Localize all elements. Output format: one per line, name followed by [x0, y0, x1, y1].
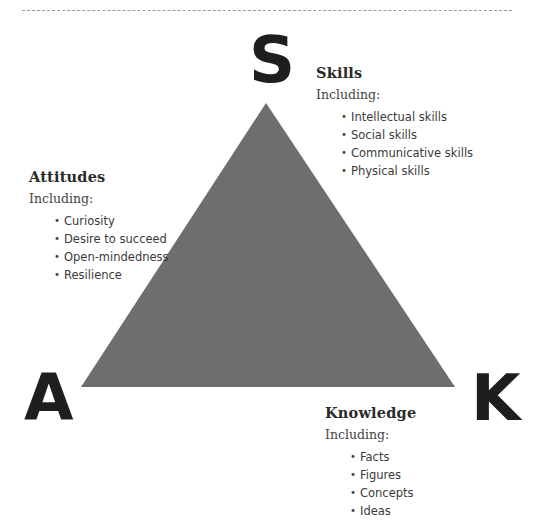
- vertex-letter-k: K: [471, 366, 521, 430]
- knowledge-list: Facts Figures Concepts Ideas: [325, 448, 416, 520]
- list-item: Curiosity: [54, 212, 169, 230]
- skills-block: Skills Including: Intellectual skills So…: [316, 64, 473, 180]
- list-item: Open-mindedness: [54, 248, 169, 266]
- skills-intro: Including:: [316, 87, 473, 102]
- skills-heading: Skills: [316, 64, 473, 81]
- list-item: Physical skills: [341, 162, 473, 180]
- list-item: Facts: [350, 448, 416, 466]
- list-item: Desire to succeed: [54, 230, 169, 248]
- knowledge-heading: Knowledge: [325, 404, 416, 421]
- list-item: Intellectual skills: [341, 108, 473, 126]
- list-item: Resilience: [54, 266, 169, 284]
- list-item: Social skills: [341, 126, 473, 144]
- vertex-letter-a: A: [24, 366, 74, 430]
- list-item: Concepts: [350, 484, 416, 502]
- skills-list: Intellectual skills Social skills Commun…: [316, 108, 473, 180]
- knowledge-intro: Including:: [325, 427, 416, 442]
- list-item: Ideas: [350, 502, 416, 520]
- attitudes-block: Attitudes Including: Curiosity Desire to…: [29, 168, 169, 284]
- attitudes-list: Curiosity Desire to succeed Open-mindedn…: [29, 212, 169, 284]
- list-item: Communicative skills: [341, 144, 473, 162]
- knowledge-block: Knowledge Including: Facts Figures Conce…: [325, 404, 416, 520]
- attitudes-intro: Including:: [29, 191, 169, 206]
- attitudes-heading: Attitudes: [29, 168, 169, 185]
- list-item: Figures: [350, 466, 416, 484]
- vertex-letter-s: S: [249, 28, 295, 92]
